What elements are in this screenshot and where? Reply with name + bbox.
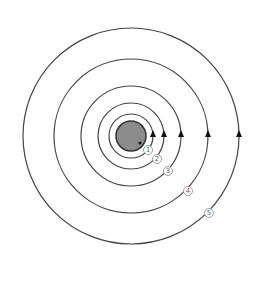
orbit-1-label: 1 — [144, 146, 153, 155]
svg-text:2: 2 — [155, 155, 159, 163]
svg-text:4: 4 — [186, 187, 191, 195]
orbit-4-direction-arrow-icon — [205, 130, 211, 137]
svg-text:5: 5 — [207, 209, 211, 217]
orbit-4-label: 4 — [184, 187, 193, 196]
orbit-1-direction-arrow-icon — [150, 130, 156, 137]
orbit-5-direction-arrow-icon — [236, 130, 242, 137]
orbit-diagram: 12345 — [0, 0, 265, 284]
arrows-layer — [150, 130, 242, 137]
svg-text:1: 1 — [146, 146, 150, 154]
orbit-5-label: 5 — [205, 209, 214, 218]
svg-text:3: 3 — [166, 167, 170, 175]
planet-marker-dot — [139, 142, 142, 145]
orbit-2-direction-arrow-icon — [161, 130, 167, 137]
central-planet — [116, 121, 146, 151]
orbit-3-label: 3 — [164, 167, 173, 176]
orbit-2-label: 2 — [153, 155, 162, 164]
orbit-3-direction-arrow-icon — [178, 130, 184, 137]
labels-layer: 12345 — [144, 146, 214, 218]
